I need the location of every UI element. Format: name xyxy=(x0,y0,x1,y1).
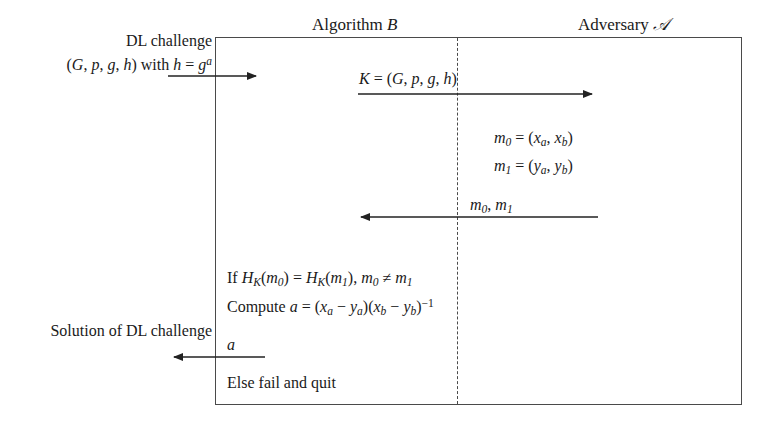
protocol-diagram-canvas: Algorithm B Adversary 𝒜 DL challenge (G,… xyxy=(0,0,767,422)
arrow-layer xyxy=(0,0,767,422)
